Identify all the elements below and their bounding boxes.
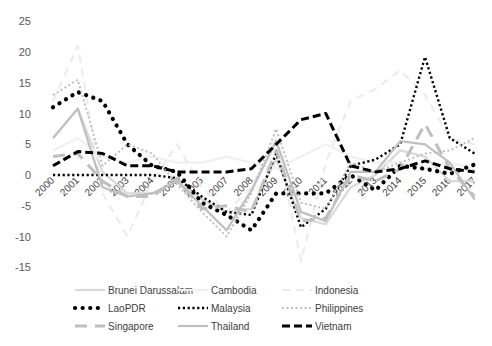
line-chart: 2520151050-5-10-15 200020012002200320042… bbox=[0, 0, 492, 346]
y-axis: 2520151050-5-10-15 bbox=[15, 15, 31, 273]
y-tick-label: 10 bbox=[19, 108, 31, 120]
y-tick-label: -5 bbox=[21, 200, 31, 212]
y-tick-label: -10 bbox=[15, 231, 31, 243]
y-tick-label: 0 bbox=[25, 169, 31, 181]
legend-label: Singapore bbox=[108, 321, 154, 332]
legend-label: Malaysia bbox=[211, 303, 251, 314]
y-tick-label: 5 bbox=[25, 138, 31, 150]
legend-item-philippines: Philippines bbox=[282, 303, 363, 314]
plot-area bbox=[53, 46, 475, 261]
legend-item-laopdr: LaoPDR bbox=[75, 303, 146, 314]
x-tick-label: 2016 bbox=[430, 174, 454, 198]
legend-item-singapore: Singapore bbox=[75, 321, 154, 332]
y-tick-label: 15 bbox=[19, 77, 31, 89]
legend-label: LaoPDR bbox=[108, 303, 146, 314]
legend-item-malaysia: Malaysia bbox=[178, 303, 251, 314]
legend-label: Cambodia bbox=[211, 285, 257, 296]
legend-item-brunei-darussalam: Brunei Darussalam bbox=[75, 285, 193, 296]
x-tick-label: 2001 bbox=[58, 174, 82, 198]
legend-label: Vietnam bbox=[315, 321, 352, 332]
legend-item-indonesia: Indonesia bbox=[282, 285, 359, 296]
y-tick-label: 25 bbox=[19, 15, 31, 27]
legend-label: Philippines bbox=[315, 303, 363, 314]
x-tick-label: 2000 bbox=[33, 174, 57, 198]
y-tick-label: 20 bbox=[19, 46, 31, 58]
legend-item-thailand: Thailand bbox=[178, 321, 249, 332]
y-tick-label: -15 bbox=[15, 261, 31, 273]
series-line-singapore bbox=[53, 124, 475, 221]
legend-label: Indonesia bbox=[315, 285, 359, 296]
legend: Brunei DarussalamCambodiaIndonesiaLaoPDR… bbox=[75, 285, 363, 332]
legend-label: Thailand bbox=[211, 321, 249, 332]
x-tick-label: 2015 bbox=[405, 174, 429, 198]
legend-item-vietnam: Vietnam bbox=[282, 321, 352, 332]
